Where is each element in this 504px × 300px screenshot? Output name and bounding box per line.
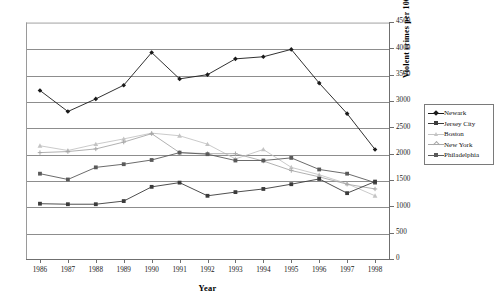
data-point [206, 152, 210, 156]
y-axis-tick [389, 48, 394, 49]
x-axis-tick [124, 259, 125, 263]
data-point [150, 185, 154, 189]
y-axis-line [389, 22, 390, 259]
data-point [94, 97, 99, 102]
data-point [373, 180, 377, 184]
y-axis-tick-label: 0 [396, 255, 400, 262]
x-axis-tick [319, 259, 320, 263]
data-point [38, 150, 42, 154]
x-axis-tick [375, 259, 376, 263]
y-axis-tick [389, 206, 394, 207]
x-axis-tick [291, 259, 292, 263]
data-point [289, 182, 293, 186]
y-axis-tick-label: 2000 [396, 150, 410, 157]
x-axis-tick-label: 1992 [193, 266, 223, 274]
legend-label: Newark [444, 109, 466, 117]
data-point [261, 54, 266, 59]
data-point [289, 156, 293, 160]
data-point [38, 202, 42, 206]
x-axis-tick-label: 1988 [81, 266, 111, 274]
data-point [261, 187, 265, 191]
y-axis-title: Violent crimes per 100,000 [402, 0, 411, 78]
x-axis-tick-label: 1991 [165, 266, 195, 274]
data-point [234, 159, 238, 163]
y-axis-tick-label: 500 [396, 229, 407, 236]
series-line [40, 179, 375, 204]
y-axis-tick-label: 2500 [396, 124, 410, 131]
y-axis-tick [389, 127, 394, 128]
x-axis-tick [68, 259, 69, 263]
data-point [178, 151, 182, 155]
data-point [66, 178, 70, 182]
data-point [233, 57, 238, 62]
data-point [261, 159, 265, 163]
data-point [66, 202, 70, 206]
y-axis-tick [389, 259, 394, 260]
series-layer [26, 22, 389, 259]
legend-marker-icon [428, 129, 444, 139]
legend: NewarkJersey CityBostonNew YorkPhiladelp… [424, 104, 494, 165]
legend-label: New York [444, 141, 472, 149]
data-point [94, 202, 98, 206]
data-point [178, 181, 182, 185]
y-axis-tick-label: 1500 [396, 176, 410, 183]
data-point [261, 147, 266, 151]
legend-item-jersey-city[interactable]: Jersey City [428, 119, 491, 130]
data-point [38, 143, 43, 147]
x-axis-tick-label: 1997 [332, 266, 362, 274]
x-axis-tick [235, 259, 236, 263]
x-axis-tick-label: 1993 [220, 266, 250, 274]
data-point [38, 172, 42, 176]
x-axis-tick-label: 1994 [248, 266, 278, 274]
data-point [150, 158, 154, 162]
x-axis-tick-label: 1998 [360, 266, 390, 274]
y-axis-tick [389, 180, 394, 181]
legend-item-boston[interactable]: Boston [428, 129, 491, 140]
series-philadelphia [38, 151, 377, 185]
x-axis-tick [152, 259, 153, 263]
data-point [317, 177, 321, 181]
y-axis-tick [389, 154, 394, 155]
data-point [373, 187, 377, 191]
legend-marker-icon [428, 108, 444, 118]
legend-label: Philadelphia [444, 151, 479, 159]
data-point [94, 147, 98, 151]
y-axis-tick [389, 75, 394, 76]
y-axis-tick [389, 101, 394, 102]
x-axis-tick [347, 259, 348, 263]
legend-marker-icon [428, 140, 444, 150]
data-point [205, 72, 210, 77]
x-axis-tick [180, 259, 181, 263]
x-axis-tick-label: 1995 [276, 266, 306, 274]
x-axis-tick-label: 1996 [304, 266, 334, 274]
y-axis-tick [389, 233, 394, 234]
data-point [345, 182, 349, 186]
y-axis-tick-label: 3000 [396, 97, 410, 104]
x-axis-title: Year [26, 284, 389, 293]
chart-figure: 050010001500200025003000350040004500 198… [0, 0, 504, 300]
x-axis-tick [263, 259, 264, 263]
legend-item-new-york[interactable]: New York [428, 140, 491, 151]
x-axis-tick-label: 1986 [25, 266, 55, 274]
y-axis-tick-label: 1000 [396, 203, 410, 210]
legend-label: Boston [444, 130, 464, 138]
data-point [345, 172, 349, 176]
series-jersey-city [38, 177, 377, 206]
legend-marker-icon [428, 150, 444, 160]
legend-item-newark[interactable]: Newark [428, 108, 491, 119]
data-point [122, 199, 126, 203]
legend-item-philadelphia[interactable]: Philadelphia [428, 150, 491, 161]
data-point [122, 162, 126, 166]
data-point [317, 168, 321, 172]
y-axis-tick [389, 22, 394, 23]
x-axis-tick-label: 1989 [109, 266, 139, 274]
series-newark [38, 47, 378, 152]
x-axis-tick-label: 1987 [53, 266, 83, 274]
x-axis-tick [208, 259, 209, 263]
data-point [206, 194, 210, 198]
x-axis-tick [40, 259, 41, 263]
data-point [345, 191, 349, 195]
data-point [94, 165, 98, 169]
x-axis-tick-label: 1990 [137, 266, 167, 274]
data-point [234, 190, 238, 194]
